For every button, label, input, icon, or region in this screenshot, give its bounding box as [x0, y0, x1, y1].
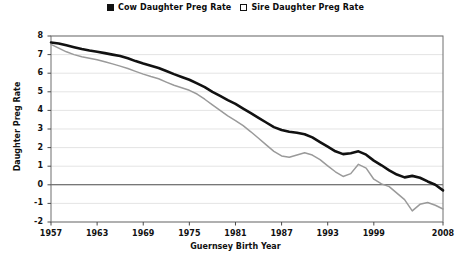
- plot-area: [0, 0, 471, 260]
- y-tick-label: 4: [19, 106, 43, 114]
- y-tick-label: -2: [19, 218, 43, 226]
- x-tick-label: 1957: [31, 230, 71, 238]
- x-tick-label: 1987: [262, 230, 302, 238]
- y-tick-label: 5: [19, 88, 43, 96]
- y-tick-label: 7: [19, 51, 43, 59]
- y-tick-label: 8: [19, 32, 43, 40]
- series-line-cow: [51, 43, 443, 191]
- x-tick-label: 1963: [77, 230, 117, 238]
- x-tick-label: 1969: [123, 230, 163, 238]
- y-tick-label: 6: [19, 69, 43, 77]
- x-tick-label: 1975: [169, 230, 209, 238]
- y-tick-label: 2: [19, 144, 43, 152]
- y-tick-label: 1: [19, 162, 43, 170]
- y-tick-label: 0: [19, 181, 43, 189]
- y-tick-label: -1: [19, 199, 43, 207]
- x-tick-label: 1993: [308, 230, 348, 238]
- x-tick-label: 1981: [215, 230, 255, 238]
- y-tick-label: 3: [19, 125, 43, 133]
- x-tick-label: 2008: [423, 230, 463, 238]
- x-tick-label: 1999: [354, 230, 394, 238]
- series-line-sire: [51, 44, 443, 210]
- chart-container: Cow Daughter Preg Rate Sire Daughter Pre…: [0, 0, 471, 260]
